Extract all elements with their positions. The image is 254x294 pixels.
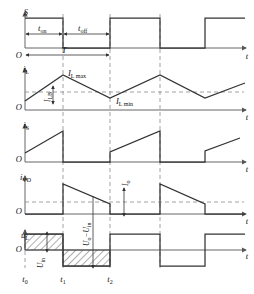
y-axis-label-s: S [24,7,29,17]
label-t-on: ton [38,23,46,34]
waveform-diode-current [25,184,245,214]
waveform-figure: S O t ton toff T iL O t IL max IL min IL… [0,0,254,294]
waveform-switch-current [25,131,240,162]
x-axis-label-4: t [246,216,249,226]
origin-label-2: O [16,102,22,112]
x-axis-label-3: t [246,164,249,174]
label-il-max: IL max [67,68,86,79]
time-marker-t2: t2 [107,274,112,285]
y-axis-label-il: iL [23,64,29,75]
label-t-off: toff [78,23,87,34]
hatch-positive-u-in [25,234,63,250]
plot-inductor-voltage: uL O t Uin Uo−Uin [16,196,249,268]
label-uo-minus-uin: Uo−Uin [82,222,92,246]
plot-inductor-current: iL O t IL max IL min ILB [16,64,249,122]
x-axis-label-2: t [246,112,249,122]
label-ripple: ILB [43,92,53,103]
label-u-in: Uin [36,258,46,268]
plot-switch-drive: S O t ton toff T [16,7,249,61]
plot-switch-current: iS O t [16,120,249,174]
x-axis-label-5: t [246,251,249,261]
x-axis-label-1: t [246,51,249,61]
time-marker-labels: t0 t1 t2 [22,274,112,285]
y-axis-label-ul: uL [21,230,29,241]
label-period: T [62,45,68,55]
hatch-negative-uo-uin [63,250,110,266]
plot-diode-current: iVD O t Io [16,172,249,226]
time-marker-t0: t0 [22,274,27,285]
time-marker-t1: t1 [60,274,65,285]
waveform-switch-drive [25,18,245,48]
origin-label-4: O [16,206,22,216]
origin-label-3: O [16,154,22,164]
y-axis-label-is: iS [23,120,29,131]
y-axis-label-ivd: iVD [20,172,32,183]
origin-label-1: O [16,50,22,60]
label-il-min: IL min [115,96,133,107]
origin-label-5: O [16,244,22,254]
timing-diagram-svg: S O t ton toff T iL O t IL max IL min IL… [0,0,254,294]
waveform-inductor-current [25,75,245,101]
label-output-current: Io [121,181,131,188]
